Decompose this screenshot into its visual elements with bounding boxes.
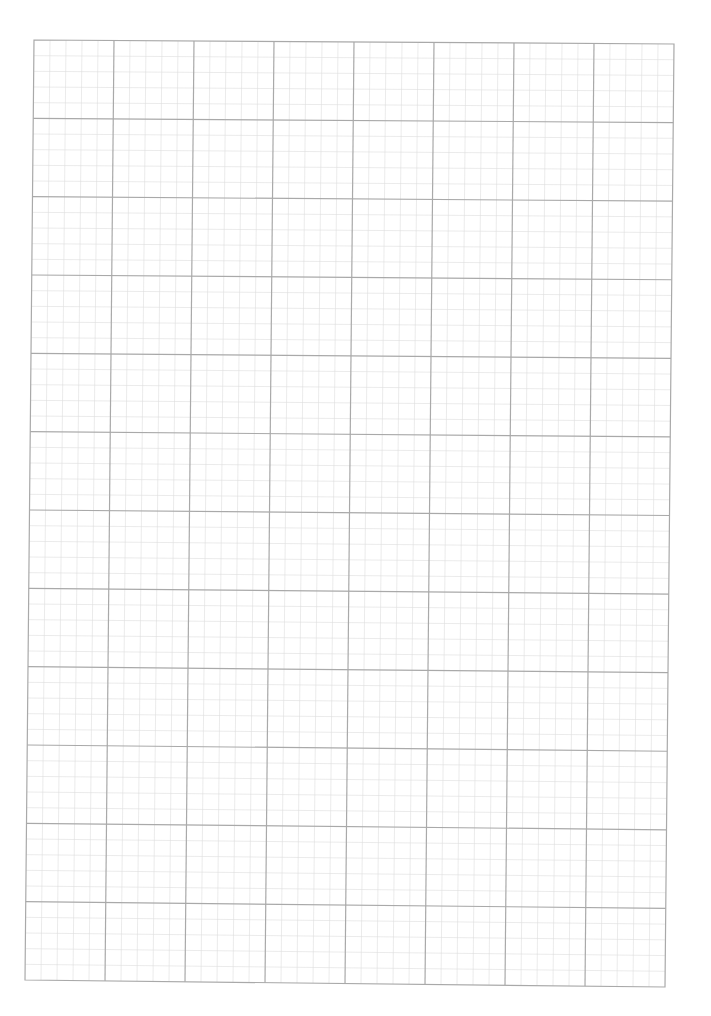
graph-paper-sheet	[0, 0, 711, 1016]
major-grid-lines	[26, 41, 674, 987]
